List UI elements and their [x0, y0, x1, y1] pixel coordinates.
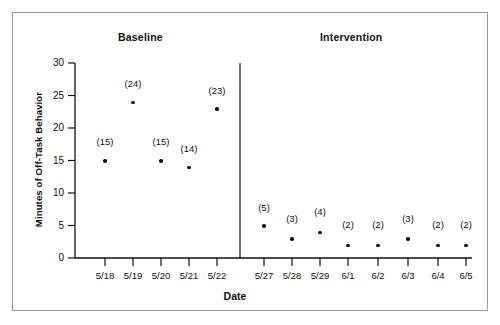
data-point [131, 101, 134, 104]
data-point [215, 107, 218, 110]
data-point-label: (5) [247, 202, 281, 213]
chart-figure: Baseline Intervention Minutes of Off-Tas… [0, 0, 500, 325]
phase-label-intervention: Intervention [320, 31, 383, 43]
y-tick-label: 10 [40, 187, 64, 198]
y-tick-label: 5 [40, 220, 64, 231]
y-tick-label: 30 [40, 57, 64, 68]
x-tick-label: 6/5 [447, 270, 485, 281]
data-point [464, 244, 467, 247]
data-point [406, 237, 409, 240]
y-tick-label: 25 [40, 90, 64, 101]
data-point-label: (4) [303, 206, 337, 217]
data-point [436, 244, 439, 247]
x-axis-ticks [105, 258, 466, 266]
x-axis-title: Date [185, 290, 285, 302]
y-tick-label: 0 [40, 252, 64, 263]
x-tick-label: 5/22 [198, 270, 236, 281]
phase-label-baseline: Baseline [118, 31, 163, 43]
data-point-label: (2) [331, 219, 365, 230]
data-point [290, 237, 293, 240]
data-point-label: (14) [172, 143, 206, 154]
data-point-label: (24) [116, 78, 150, 89]
data-point-label: (2) [361, 219, 395, 230]
data-point-label: (3) [391, 213, 425, 224]
data-point [187, 166, 190, 169]
data-point-label: (15) [88, 136, 122, 147]
y-tick-label: 15 [40, 155, 64, 166]
data-point [103, 159, 106, 162]
data-point [262, 224, 265, 227]
data-point-label: (2) [449, 219, 483, 230]
data-point-label: (23) [200, 85, 234, 96]
data-point [159, 159, 162, 162]
y-tick-label: 20 [40, 122, 64, 133]
data-point [318, 231, 321, 234]
data-point [376, 244, 379, 247]
data-point [346, 244, 349, 247]
y-axis-ticks [68, 63, 75, 258]
